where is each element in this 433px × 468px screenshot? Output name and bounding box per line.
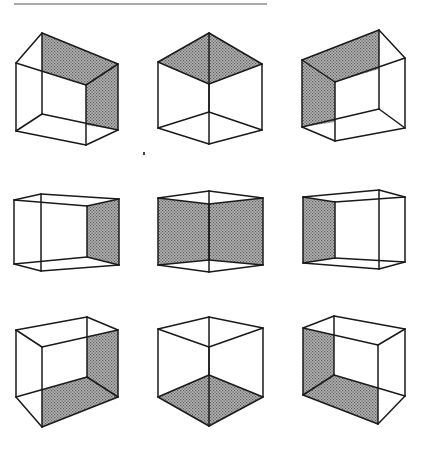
figure-canvas: [0, 0, 433, 468]
cube-edge: [303, 316, 334, 328]
cube-edge: [14, 194, 41, 200]
cube-edge: [335, 197, 405, 202]
cube-6: [303, 190, 405, 269]
cube-7: [16, 317, 118, 427]
cube-edge: [16, 397, 42, 427]
cube-3: [302, 30, 405, 141]
cube-edge: [14, 264, 41, 271]
cube-edge: [158, 317, 209, 329]
cube-1: [16, 33, 118, 145]
cube-edge: [16, 114, 42, 131]
cube-edge: [335, 128, 405, 141]
cube-edge: [41, 194, 119, 199]
cube-edge: [302, 127, 335, 141]
cube-edge: [16, 330, 42, 347]
cube-edge: [14, 257, 87, 264]
cube-edge: [335, 258, 405, 262]
shaded-face: [87, 199, 119, 265]
cube-edge: [158, 191, 209, 198]
shaded-face: [209, 198, 263, 265]
cube-edge: [209, 265, 263, 272]
cube-edge: [209, 112, 262, 130]
cube-edge: [86, 130, 118, 145]
cube-8: [158, 317, 263, 426]
cube-edge: [41, 265, 119, 271]
cube-edge: [209, 317, 263, 328]
cube-edge: [379, 30, 405, 58]
cube-edge: [158, 329, 209, 347]
cube-edge: [16, 131, 86, 145]
shaded-face: [158, 375, 263, 426]
cube-5: [158, 191, 263, 272]
cube-edge: [334, 316, 405, 329]
cube-edge: [16, 33, 42, 63]
cube-edge: [158, 112, 209, 128]
shaded-face: [303, 197, 335, 263]
cube-edge: [14, 200, 87, 206]
cube-edge: [379, 262, 405, 269]
cube-edge: [379, 190, 405, 197]
cube-2: [158, 33, 262, 144]
cube-edge: [158, 128, 209, 144]
cube-edge: [16, 317, 87, 330]
cube-edge: [209, 191, 263, 198]
cube-edge: [303, 263, 379, 269]
cube-edge: [378, 396, 405, 424]
cube-4: [14, 194, 119, 271]
shaded-face: [158, 33, 262, 84]
cube-9: [303, 316, 405, 424]
cube-edge: [209, 130, 262, 144]
cube-edge: [378, 329, 405, 345]
cubes-group: [14, 30, 405, 427]
cube-grid-figure: [0, 0, 433, 468]
cube-edge: [87, 317, 118, 330]
speck-mark: [143, 152, 145, 155]
cube-edge: [379, 109, 405, 128]
cube-edge: [209, 328, 263, 347]
cube-edge: [303, 190, 379, 197]
cube-edge: [158, 265, 209, 272]
shaded-face: [158, 198, 209, 265]
